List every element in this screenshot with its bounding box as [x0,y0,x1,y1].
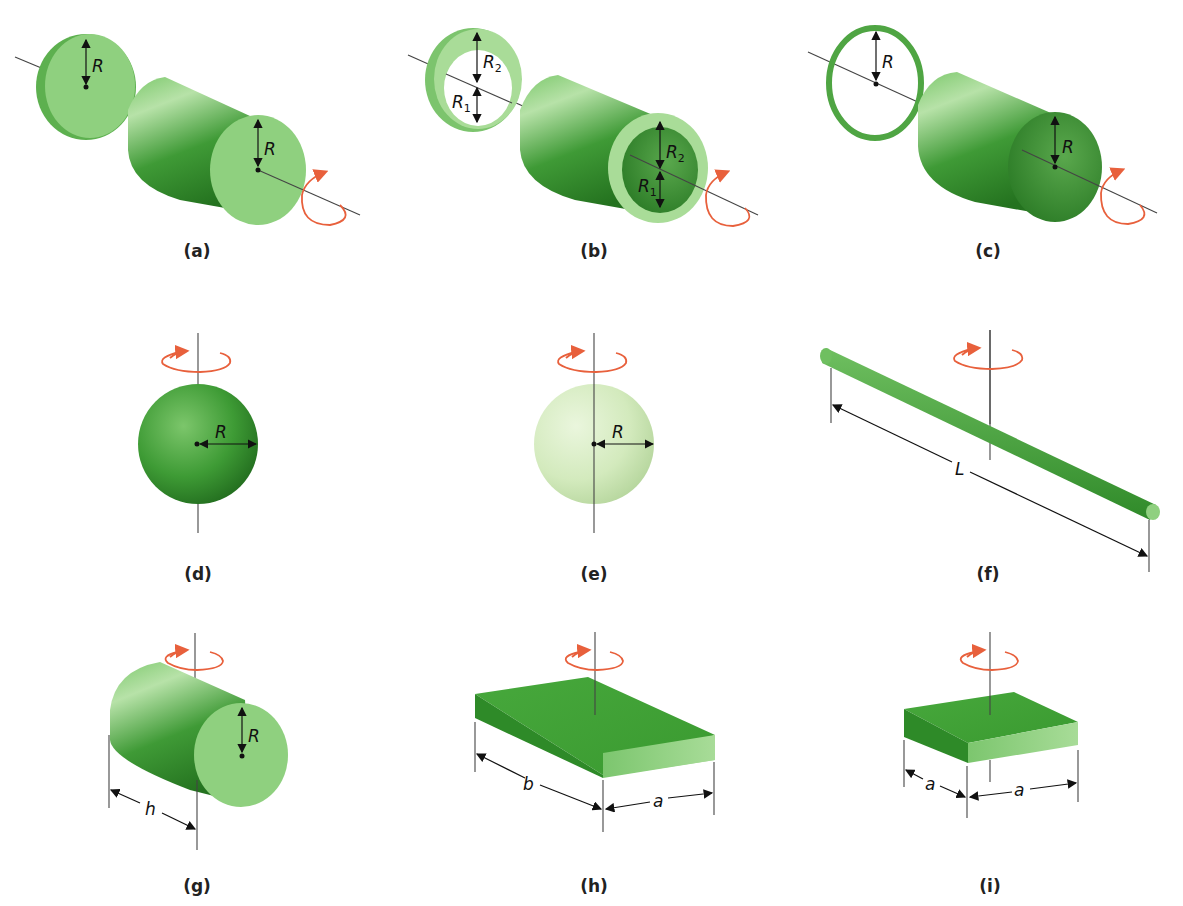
center-point [256,168,261,173]
center-point [84,85,89,90]
rotation-axis [808,52,920,103]
panel-caption: (b) [580,241,608,261]
panel-caption: (c) [975,241,1001,261]
a-dimension [1030,783,1076,789]
label-a: a [653,791,663,811]
label-r: R [264,139,276,159]
a-dimension [970,792,1012,797]
length-dimension [970,472,1147,556]
panel-f-thin-rod: L (f) [820,330,1160,584]
label-r: R [612,422,624,442]
panel-b-hollow-cylinder: R2 R1 R2 R1 (b) [408,28,758,261]
label-r: R [215,422,227,442]
panel-caption: (d) [184,564,212,584]
center-point [240,754,245,759]
center-point [874,82,879,87]
panel-caption: (g) [183,876,211,896]
height-dimension [111,790,140,803]
label-r: R [92,56,104,76]
panel-caption: (f) [977,564,1000,584]
height-dimension [162,813,195,829]
label-b: b [523,774,534,794]
rod-body [822,348,1156,520]
label-r: R [882,52,894,72]
panel-caption: (e) [580,564,607,584]
disk-face [45,34,135,138]
panel-e-spherical-shell: R (e) [534,333,654,584]
panel-a-solid-cylinder: R R (a) [15,34,360,261]
panel-d-solid-sphere: R (d) [138,333,258,584]
label-r: R [1062,137,1074,157]
a-dimension [906,770,923,779]
panel-g-solid-cylinder-transverse: R h (g) [109,633,288,896]
moment-of-inertia-figure: R R (a) R2 R1 R2 R1 (b) R [0,0,1183,906]
label-r: R [248,726,260,746]
label-l: L [955,459,964,479]
panel-i-square-plate: a a (i) [904,632,1078,896]
label-a: a [925,774,935,794]
panel-h-rectangular-plate: b a (h) [475,632,715,896]
b-dimension [477,754,525,778]
center-point [592,442,597,447]
center-point [195,442,200,447]
label-h: h [145,799,156,819]
rod-near-end [1146,504,1160,520]
center-point [1053,165,1058,170]
b-dimension [540,785,601,809]
a-dimension [668,793,712,798]
panel-caption: (i) [979,876,1000,896]
rotation-arrow-icon [706,172,749,226]
panel-c-thin-hoop: R R (c) [808,28,1157,261]
a-dimension [606,802,650,809]
rod-far-end [820,348,832,364]
panel-caption: (h) [580,876,608,896]
label-a: a [1014,780,1024,800]
panel-caption: (a) [183,241,210,261]
a-dimension [940,786,965,797]
